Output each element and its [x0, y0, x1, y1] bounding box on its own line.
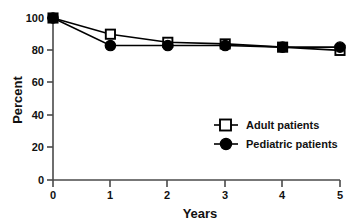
open-square-icon	[220, 120, 231, 131]
y-tick-label-100: 100	[26, 12, 44, 24]
legend-entry-adult-patients: Adult patients	[214, 119, 319, 131]
x-tick-label-1: 1	[107, 189, 113, 201]
x-axis-title: Years	[183, 206, 218, 221]
survival-line-chart: 100 80 60 40 20 0 Percent 0 1 2 3 4 5	[0, 0, 357, 224]
marker-open-square	[106, 30, 115, 39]
x-tick-label-5: 5	[337, 189, 343, 201]
y-axis-title: Percent	[10, 75, 25, 123]
marker-filled-circle	[277, 42, 287, 52]
marker-filled-circle	[335, 42, 345, 52]
y-tick-label-20: 20	[32, 141, 44, 153]
y-tick-label-60: 60	[32, 76, 44, 88]
figure-container: 100 80 60 40 20 0 Percent 0 1 2 3 4 5	[0, 0, 357, 224]
y-tick-label-80: 80	[32, 44, 44, 56]
marker-filled-circle	[163, 40, 173, 50]
y-tick-label-40: 40	[32, 109, 44, 121]
x-tick-label-0: 0	[50, 189, 56, 201]
legend-label-pediatric-patients: Pediatric patients	[246, 138, 338, 150]
marker-filled-circle	[48, 13, 58, 23]
marker-filled-circle	[220, 40, 230, 50]
x-tick-label-3: 3	[222, 189, 228, 201]
marker-filled-circle	[105, 40, 115, 50]
x-tick-label-4: 4	[279, 189, 286, 201]
legend-label-adult-patients: Adult patients	[246, 119, 319, 131]
x-tick-label-2: 2	[164, 189, 170, 201]
filled-circle-icon	[220, 138, 231, 149]
y-tick-label-0: 0	[38, 174, 44, 186]
